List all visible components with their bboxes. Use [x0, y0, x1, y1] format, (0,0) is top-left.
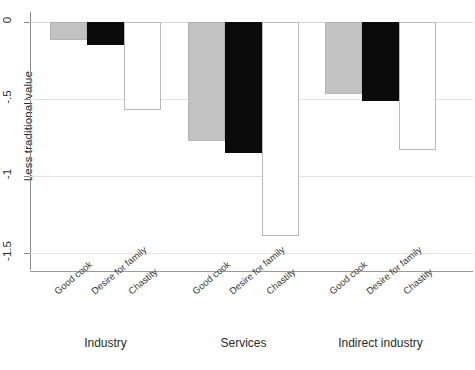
y-tick-label--1: -1	[1, 159, 13, 189]
y-tick--1p5	[24, 253, 30, 254]
y-tick-label-0: 0	[1, 5, 13, 35]
y-tick--1	[24, 176, 30, 177]
group-label-indirect-industry: Indirect industry	[311, 336, 451, 350]
bar-indirect-industry-good-cook	[325, 22, 362, 94]
bar-industry-good-cook	[50, 22, 87, 40]
bar-services-chastity	[262, 22, 299, 236]
y-tick-label--p5: -.5	[1, 82, 13, 112]
group-label-industry: Industry	[36, 336, 176, 350]
bar-industry-chastity	[124, 22, 161, 110]
group-label-services: Services	[174, 336, 314, 350]
bar-indirect-industry-desire-for-family	[362, 22, 399, 101]
y-tick-0	[24, 22, 30, 23]
bar-indirect-industry-chastity	[399, 22, 436, 150]
gridline--1	[30, 176, 473, 177]
bar-industry-desire-for-family	[87, 22, 124, 45]
bar-chart-figure: Less traditional value 0-.5-1-1.5Good co…	[0, 0, 475, 370]
y-tick--p5	[24, 99, 30, 100]
y-tick-label--1p5: -1.5	[1, 236, 13, 266]
bar-services-good-cook	[188, 22, 225, 141]
bar-services-desire-for-family	[225, 22, 262, 153]
